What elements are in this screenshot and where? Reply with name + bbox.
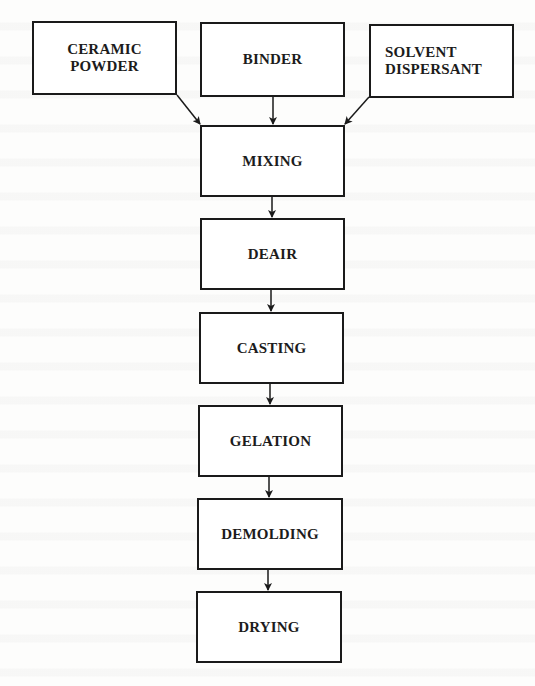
step-box-drying: DRYING	[196, 591, 342, 663]
arrow-ceramic-to-mixing	[177, 95, 200, 124]
arrow-solvent-to-mixing	[345, 97, 369, 124]
input-box-solvent-dispersant: SOLVENT DISPERSANT	[369, 24, 514, 98]
step-box-demolding: DEMOLDING	[197, 498, 343, 570]
step-box-gelation: GELATION	[198, 405, 343, 477]
step-label-gelation: GELATION	[230, 433, 311, 450]
input-label-ceramic-powder: CERAMIC POWDER	[67, 41, 142, 75]
input-box-binder: BINDER	[200, 22, 345, 97]
step-box-casting: CASTING	[199, 312, 344, 384]
step-label-drying: DRYING	[238, 619, 300, 636]
input-box-ceramic-powder: CERAMIC POWDER	[32, 21, 177, 95]
input-label-binder: BINDER	[243, 51, 303, 68]
step-label-casting: CASTING	[237, 340, 307, 357]
step-box-deair: DEAIR	[200, 218, 345, 290]
step-label-deair: DEAIR	[248, 246, 297, 263]
step-box-mixing: MIXING	[200, 125, 345, 197]
step-label-mixing: MIXING	[242, 153, 302, 170]
step-label-demolding: DEMOLDING	[221, 526, 319, 543]
diagram-page: CERAMIC POWDER BINDER SOLVENT DISPERSANT…	[0, 0, 535, 686]
input-label-solvent-dispersant: SOLVENT DISPERSANT	[385, 44, 482, 78]
